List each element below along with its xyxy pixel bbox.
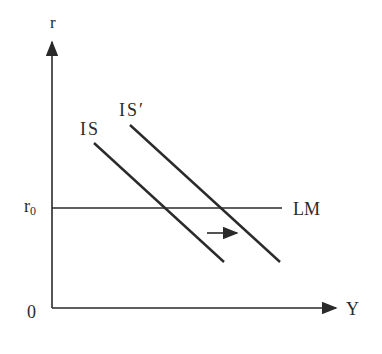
is-prime-label: IS′ (119, 100, 145, 120)
is-prime-curve (130, 125, 280, 262)
is-curve (94, 143, 224, 262)
is-label: IS (80, 119, 100, 139)
is-lm-diagram: r Y 0 r0 LM IS IS′ (0, 0, 382, 354)
r0-label: r0 (24, 196, 36, 218)
origin-label: 0 (27, 302, 36, 322)
x-axis-label: Y (346, 299, 359, 319)
lm-label: LM (293, 199, 320, 219)
y-axis-label: r (50, 13, 56, 32)
